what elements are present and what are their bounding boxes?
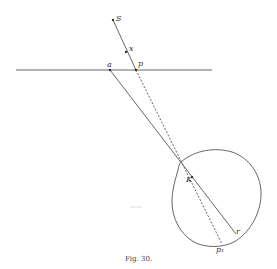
label-x: x [129,44,134,53]
label-r: r [236,227,241,236]
dashed-line-p-to-p1 [136,70,222,244]
point-a [109,69,112,72]
point-s [112,19,114,21]
line-a-to-r [110,70,236,234]
label-s: S [116,14,122,23]
figure-diagram: S x a p K r p₁ Fig. 30. [0,0,277,269]
point-x [125,51,127,53]
label-k: K [185,175,193,184]
label-p: p [138,59,143,68]
figure-caption: Fig. 30. [125,255,152,263]
label-p1: p₁ [216,245,224,254]
label-a: a [107,60,112,69]
point-p [135,69,138,72]
